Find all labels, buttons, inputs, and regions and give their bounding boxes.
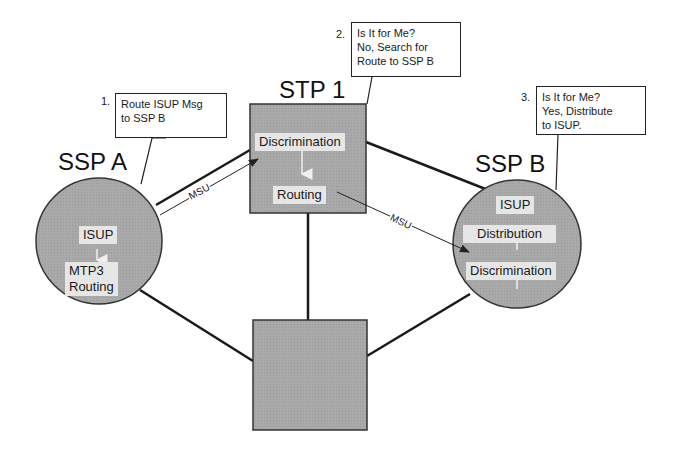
stp-1-layer-discrimination: Discrimination [255,133,345,151]
stp-1-title: STP 1 [279,78,345,102]
callout-3-number: 3. [521,91,530,103]
callout-3-pointer [556,134,570,190]
callout-1-pointer [141,138,166,184]
ssp-b-layer-isup: ISUP [496,196,534,214]
stp-1-layer-routing: Routing [273,186,326,204]
callout-2-line-3: Route to SSP B [357,54,455,68]
callout-3-line-1: Is It for Me? [542,90,640,104]
callout-1-number: 1. [101,95,110,107]
ssp-b-layer-distribution: Distribution [463,225,556,243]
callout-1-line-2: to SSP B [121,111,221,125]
ssp-a-layer-mtp3-routing: MTP3 Routing [65,262,118,296]
link-stp2-sspb [367,294,470,356]
ssp-b-title: SSP B [475,152,545,176]
link-stp1-sspb [366,142,488,190]
callout-3-line-2: Yes, Distribute [542,104,640,118]
ssp-a-layer-isup: ISUP [79,226,117,244]
callout-2-number: 2. [336,28,345,40]
ssp-a-title: SSP A [58,150,127,174]
callout-1-line-1: Route ISUP Msg [121,97,221,111]
link-sspa-stp2 [140,290,253,361]
ssp-b-layer-discrimination: Discrimination [466,262,556,280]
callout-2-line-1: Is It for Me? [357,26,455,40]
callout-2: Is It for Me? No, Search for Route to SS… [351,22,461,77]
callout-2-line-2: No, Search for [357,40,455,54]
callout-3: Is It for Me? Yes, Distribute to ISUP. [536,86,646,135]
link-sspa-stp1 [156,150,250,205]
stp-2-node [253,320,367,430]
callout-1: Route ISUP Msg to SSP B [115,93,227,138]
callout-3-line-3: to ISUP. [542,118,640,132]
diagram-canvas [0,0,673,450]
